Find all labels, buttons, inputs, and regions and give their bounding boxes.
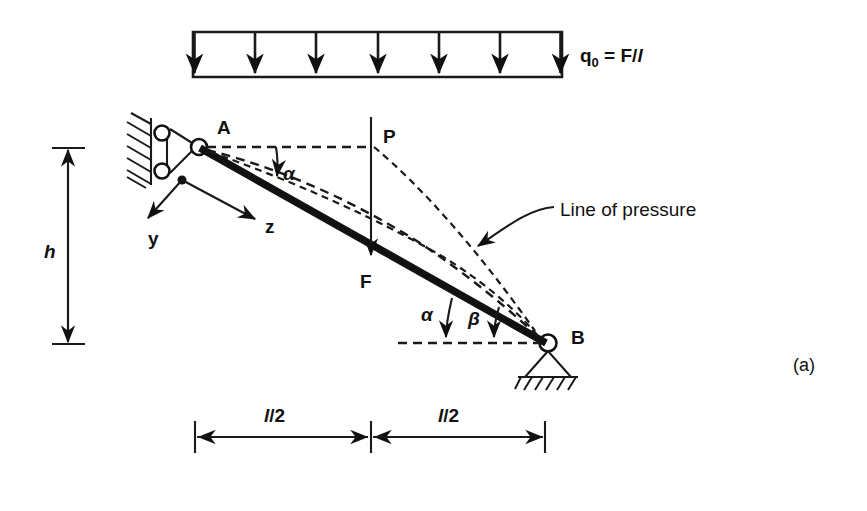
wall-hatching bbox=[127, 113, 151, 188]
label-angle-alpha-top: α bbox=[283, 163, 296, 184]
resultant-force-group: P F bbox=[360, 117, 396, 292]
label-point-p: P bbox=[383, 126, 396, 147]
angle-alpha-top-arc bbox=[276, 147, 278, 176]
label-angle-beta: β bbox=[467, 308, 480, 329]
angle-alpha-bottom-arc bbox=[446, 298, 452, 337]
span-right-rest: /2 bbox=[443, 405, 459, 426]
axis-z-arrow bbox=[182, 180, 255, 219]
label-span-left: l/2 bbox=[264, 405, 285, 426]
load-label-q: q bbox=[580, 45, 592, 66]
label-span-right: l/2 bbox=[438, 405, 459, 426]
label-angle-alpha-bottom: α bbox=[421, 304, 434, 325]
span-dimension-group: l/2 l/2 bbox=[195, 405, 545, 453]
label-point-f: F bbox=[360, 271, 372, 292]
ground-hatching-b bbox=[515, 377, 576, 390]
beam-member-ab bbox=[200, 148, 546, 343]
roller-circle-lower bbox=[155, 164, 170, 179]
load-arrow-set bbox=[195, 33, 561, 73]
line-of-pressure-annotation: Line of pressure bbox=[478, 199, 696, 246]
label-line-of-pressure: Line of pressure bbox=[560, 199, 696, 220]
support-b-group: B bbox=[515, 327, 585, 390]
axis-y-arrow bbox=[148, 180, 182, 218]
label-axis-z: z bbox=[265, 216, 275, 237]
label-figure-part: (a) bbox=[793, 355, 815, 375]
height-dimension-group: h bbox=[44, 148, 85, 344]
roller-circle-upper bbox=[155, 126, 170, 141]
distributed-load-group: q0 = F/l bbox=[193, 32, 643, 77]
label-point-b: B bbox=[571, 327, 585, 348]
label-axis-y: y bbox=[148, 228, 159, 249]
label-height-h: h bbox=[44, 241, 56, 262]
line-of-pressure-chord-from-p bbox=[374, 147, 535, 331]
load-label-equals: = F/ bbox=[599, 45, 638, 66]
coordinate-axes-group: y z bbox=[148, 176, 275, 250]
load-label-length: l bbox=[637, 45, 643, 66]
figure-container: q0 = F/l A bbox=[0, 0, 867, 511]
load-label-subscript: 0 bbox=[592, 55, 599, 70]
engineering-diagram: q0 = F/l A bbox=[0, 0, 867, 511]
angle-alpha-bottom-group: α bbox=[421, 298, 452, 337]
load-intensity-label: q0 = F/l bbox=[580, 45, 643, 70]
label-point-a: A bbox=[217, 117, 231, 138]
support-b-triangle bbox=[525, 351, 571, 377]
line-of-pressure-leader bbox=[478, 207, 554, 246]
span-left-rest: /2 bbox=[269, 405, 285, 426]
